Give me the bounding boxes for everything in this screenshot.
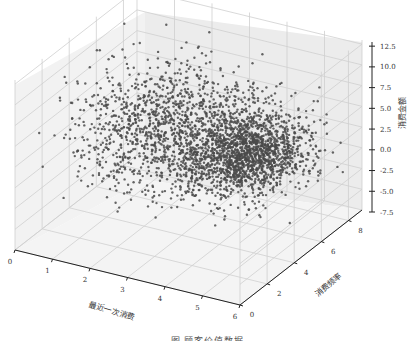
svg-text:0.0: 0.0 <box>380 146 391 154</box>
svg-text:10.0: 10.0 <box>380 63 396 71</box>
svg-text:2: 2 <box>83 276 87 284</box>
scatter-3d-chart: 012345602468-7.5-5.0-2.50.02.55.07.510.0… <box>0 0 415 341</box>
svg-text:-2.5: -2.5 <box>380 167 394 175</box>
svg-text:0: 0 <box>250 311 254 319</box>
svg-text:2: 2 <box>277 290 281 298</box>
svg-text:2.5: 2.5 <box>380 126 391 134</box>
svg-text:5.0: 5.0 <box>380 105 391 113</box>
y-axis-label: 消费频率 <box>313 270 344 298</box>
svg-text:4: 4 <box>304 269 309 277</box>
z-axis-label: 消费金额 <box>397 97 407 129</box>
svg-text:4: 4 <box>158 295 163 303</box>
x-axis-label: 最近一次消费 <box>87 299 136 322</box>
svg-text:7.5: 7.5 <box>380 84 391 92</box>
svg-text:0: 0 <box>8 258 12 266</box>
svg-text:8: 8 <box>358 227 362 235</box>
svg-text:5: 5 <box>195 304 199 312</box>
svg-text:-7.5: -7.5 <box>380 209 394 217</box>
svg-text:3: 3 <box>120 286 124 294</box>
svg-text:1: 1 <box>45 267 49 275</box>
svg-text:6: 6 <box>331 248 336 256</box>
svg-text:6: 6 <box>233 313 238 321</box>
svg-text:12.5: 12.5 <box>380 43 396 51</box>
figure-caption: 图 顾客价值数据 <box>0 334 415 341</box>
svg-text:-5.0: -5.0 <box>380 188 394 196</box>
